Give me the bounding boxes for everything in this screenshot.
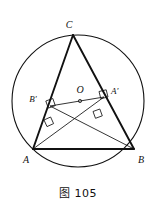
label-B-prime: B′ xyxy=(29,94,37,104)
figure-caption: 图 105 xyxy=(0,184,156,200)
segment-CA xyxy=(33,35,73,149)
label-C: C xyxy=(66,19,73,30)
label-A-prime: A′ xyxy=(110,86,119,96)
label-A: A xyxy=(22,154,30,165)
figure-container: C A B O A′ B′ 图 105 xyxy=(0,0,156,210)
right-angle-on-AA-prime-icon xyxy=(93,109,102,118)
label-O: O xyxy=(76,84,83,95)
right-angle-on-BB-prime-icon xyxy=(44,117,54,127)
segment-A-to-A-prime xyxy=(33,97,104,149)
label-B: B xyxy=(138,154,144,165)
geometry-figure: C A B O A′ B′ xyxy=(0,0,156,186)
